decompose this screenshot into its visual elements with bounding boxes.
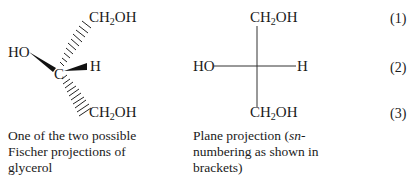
sn-number-2: (2) — [390, 61, 406, 75]
plane-h-label: H — [297, 59, 308, 74]
plane-caption: Plane projection (sn-numbering as shown … — [193, 128, 333, 175]
plane-ho-label: HO — [193, 59, 215, 74]
hashed-bond-up — [60, 21, 91, 66]
sn-number-1: (1) — [390, 12, 406, 26]
wedge-bond-left — [29, 52, 56, 72]
plane-top-ch2oh: CH2OH — [250, 10, 298, 25]
plane-bottom-ch2oh: CH2OH — [250, 105, 298, 120]
hashed-bond-down — [62, 75, 91, 116]
sn-number-3: (3) — [390, 107, 406, 121]
fischer-bottom-ch2oh: CH2OH — [89, 105, 137, 120]
fischer-h-label: H — [90, 59, 101, 74]
fischer-caption: One of the two possible Fischer projecti… — [8, 128, 158, 175]
fischer-center-carbon: C — [54, 67, 64, 82]
fischer-ho-label: HO — [8, 45, 30, 60]
wedge-bond-right — [64, 63, 87, 71]
fischer-top-ch2oh: CH2OH — [89, 10, 137, 25]
